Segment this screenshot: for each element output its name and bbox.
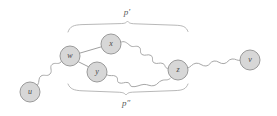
node-z[interactable]: z xyxy=(168,60,188,80)
edge-u-w xyxy=(38,58,63,86)
node-w-label: w xyxy=(67,51,73,60)
brace-p-prime-group: p′ xyxy=(68,7,188,32)
node-x-label: x xyxy=(108,39,113,48)
edge-w-y xyxy=(79,62,89,67)
node-y-label: y xyxy=(94,67,99,76)
brace-p-double-prime xyxy=(68,84,188,95)
edge-x-z xyxy=(121,42,168,69)
brace-p-prime xyxy=(68,21,188,32)
brace-p-prime-label: p′ xyxy=(123,7,132,17)
brace-p-double-prime-label: p″ xyxy=(121,98,131,108)
brace-p-double-prime-group: p″ xyxy=(68,84,188,108)
edge-z-v xyxy=(188,59,241,68)
node-y[interactable]: y xyxy=(87,62,107,82)
node-v[interactable]: v xyxy=(240,50,260,70)
edge-y-z xyxy=(106,75,170,87)
node-w[interactable]: w xyxy=(60,46,80,66)
node-u[interactable]: u xyxy=(20,82,40,102)
node-x[interactable]: x xyxy=(101,34,121,54)
graph-canvas: p′ p″ u w x xyxy=(0,0,277,116)
edge-w-x xyxy=(80,47,102,53)
node-u-label: u xyxy=(28,87,32,96)
graph-figure: p′ p″ u w x xyxy=(0,0,277,116)
node-v-label: v xyxy=(248,55,252,64)
